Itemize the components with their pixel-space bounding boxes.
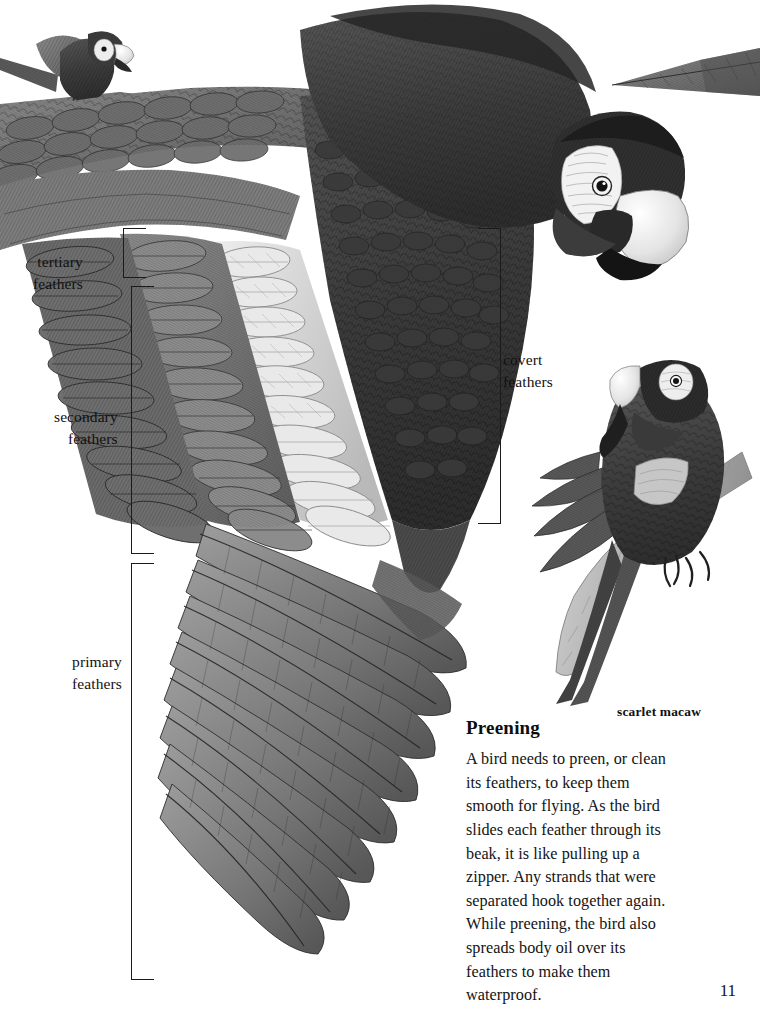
bracket-secondary	[131, 286, 154, 554]
bracket-primary	[131, 563, 154, 980]
preening-macaw	[532, 360, 752, 706]
callout-label-secondary: secondary feathers	[54, 406, 118, 451]
callout-line-2: feathers	[54, 428, 118, 450]
callout-line-2: feathers	[503, 371, 553, 393]
callout-line-1: tertiary	[33, 251, 83, 273]
callout-line-1: covert	[503, 349, 553, 371]
preening-heading: Preening	[466, 718, 671, 739]
callout-line-2: feathers	[72, 673, 122, 695]
macaw-head	[551, 112, 689, 281]
callout-line-2: feathers	[33, 273, 83, 295]
callout-label-covert: covert feathers	[503, 349, 553, 394]
callout-label-tertiary: tertiary feathers	[33, 251, 83, 296]
preening-body-text: A bird needs to preen, or clean its feat…	[466, 748, 671, 1008]
tail-feather-top-right	[612, 48, 760, 96]
bracket-covert	[478, 228, 501, 524]
preening-text-block: Preening A bird needs to preen, or clean…	[466, 718, 671, 1008]
book-page: tertiary feathers secondary feathers pri…	[0, 0, 760, 1013]
callout-line-1: secondary	[54, 406, 118, 428]
bracket-tertiary	[123, 228, 146, 278]
callout-label-primary: primary feathers	[72, 651, 122, 696]
callout-line-1: primary	[72, 651, 122, 673]
page-number: 11	[720, 981, 736, 1001]
